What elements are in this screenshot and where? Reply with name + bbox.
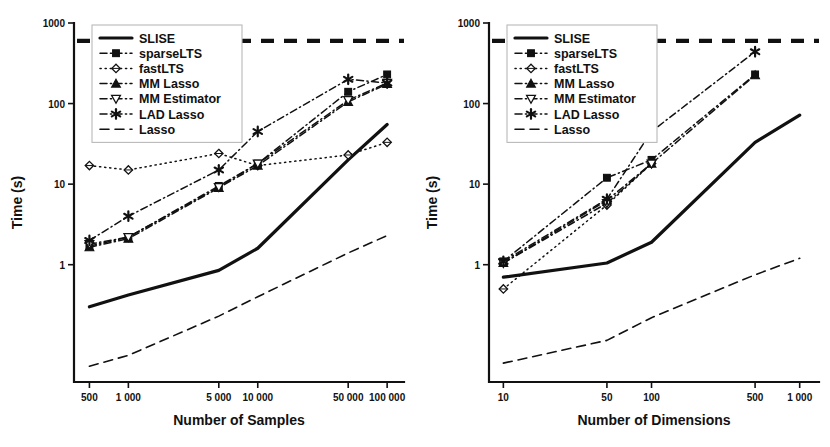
legend-label: Lasso bbox=[139, 123, 175, 137]
legend-label: fastLTS bbox=[139, 62, 184, 76]
legend-label: fastLTS bbox=[554, 62, 599, 76]
legend-label: LAD Lasso bbox=[139, 108, 205, 122]
x-axis-title: Number of Samples bbox=[173, 412, 305, 428]
x-tick-label: 10 bbox=[498, 392, 510, 403]
y-tick-label: 10 bbox=[469, 179, 481, 190]
y-tick-label: 100 bbox=[48, 99, 65, 110]
series-line-slise bbox=[89, 124, 387, 306]
x-tick-label: 10 000 bbox=[242, 392, 273, 403]
marker-square bbox=[113, 50, 120, 57]
y-tick-label: 1 bbox=[59, 260, 65, 271]
x-tick-label: 50 000 bbox=[333, 392, 364, 403]
x-tick-label: 500 bbox=[81, 392, 98, 403]
chart-panel-dimensions: 110100100010501005001 000Number of Dimen… bbox=[415, 0, 830, 447]
x-tick-label: 100 bbox=[643, 392, 660, 403]
series-slise bbox=[89, 124, 387, 306]
legend-label: MM Lasso bbox=[554, 77, 615, 91]
y-tick-label: 10 bbox=[54, 179, 66, 190]
legend-label: SLISE bbox=[554, 32, 590, 46]
marker-square bbox=[384, 71, 391, 78]
y-axis-title: Time (s) bbox=[424, 176, 440, 229]
marker-asterisk bbox=[751, 47, 759, 57]
chart-svg-samples: 11010010005001 0005 00010 00050 000100 0… bbox=[0, 0, 415, 447]
x-tick-label: 5 000 bbox=[206, 392, 231, 403]
series-line-lasso bbox=[503, 258, 799, 363]
series-lasso bbox=[503, 258, 799, 363]
chart-svg-dimensions: 110100100010501005001 000Number of Dimen… bbox=[415, 0, 830, 447]
series-fastlts bbox=[85, 138, 391, 174]
marker-asterisk bbox=[124, 211, 132, 221]
legend-item-ladlasso[interactable]: LAD Lasso bbox=[100, 108, 205, 122]
chart-panel-samples: 11010010005001 0005 00010 00050 000100 0… bbox=[0, 0, 415, 447]
x-axis-title: Number of Dimensions bbox=[577, 412, 730, 428]
marker-square bbox=[604, 174, 611, 181]
x-tick-label: 1 000 bbox=[787, 392, 812, 403]
legend-item-ladlasso[interactable]: LAD Lasso bbox=[515, 108, 620, 122]
legend-label: MM Estimator bbox=[554, 92, 636, 106]
figure-root: 11010010005001 0005 00010 00050 000100 0… bbox=[0, 0, 830, 447]
legend-label: MM Lasso bbox=[139, 77, 200, 91]
y-tick-label: 1000 bbox=[43, 18, 66, 29]
marker-asterisk bbox=[344, 75, 352, 85]
x-tick-label: 50 bbox=[601, 392, 613, 403]
series-lasso bbox=[89, 236, 387, 367]
legend-label: sparseLTS bbox=[139, 47, 202, 61]
x-tick-label: 1 000 bbox=[116, 392, 141, 403]
y-tick-label: 1 bbox=[474, 260, 480, 271]
y-axis-title: Time (s) bbox=[9, 176, 25, 229]
x-tick-label: 500 bbox=[747, 392, 764, 403]
legend-label: Lasso bbox=[554, 123, 590, 137]
marker-square bbox=[528, 50, 535, 57]
x-tick-label: 100 000 bbox=[369, 392, 406, 403]
y-tick-label: 100 bbox=[463, 99, 480, 110]
series-line-lasso bbox=[89, 236, 387, 367]
marker-square bbox=[345, 88, 352, 95]
y-tick-label: 1000 bbox=[458, 18, 481, 29]
legend: SLISEsparseLTSfastLTSMM LassoMM Estimato… bbox=[92, 25, 242, 142]
legend-label: MM Estimator bbox=[139, 92, 221, 106]
legend: SLISEsparseLTSfastLTSMM LassoMM Estimato… bbox=[507, 25, 657, 142]
legend-label: LAD Lasso bbox=[554, 108, 620, 122]
legend-label: sparseLTS bbox=[554, 47, 617, 61]
legend-label: SLISE bbox=[139, 32, 175, 46]
